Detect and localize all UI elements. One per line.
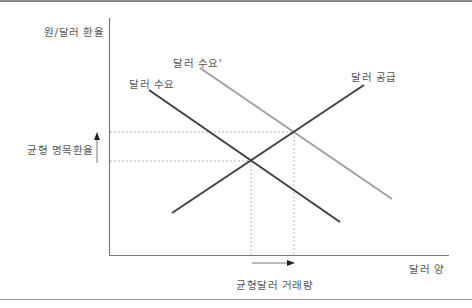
y-axis-label: 원/달러 환율 — [44, 24, 104, 39]
demand-shifted-label: 달러 수요' — [173, 55, 222, 70]
right-arrow-icon — [252, 260, 295, 266]
demand-label: 달러 수요 — [129, 76, 175, 91]
demand-shifted-line — [200, 68, 392, 199]
demand-line — [149, 90, 340, 222]
eq-quantity-label: 균형달러 거래량 — [236, 277, 313, 292]
x-axis-label: 달러 양 — [409, 261, 444, 276]
supply-label: 달러 공급 — [351, 69, 397, 84]
eq-rate-label: 균형 명목환율 — [27, 142, 94, 157]
up-arrow-icon — [94, 132, 100, 163]
supply-line — [172, 85, 364, 213]
